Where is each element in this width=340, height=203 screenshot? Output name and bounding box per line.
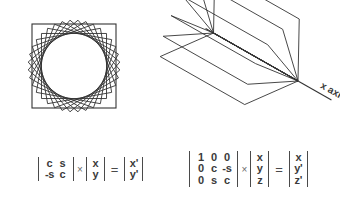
rotation-3d-matrix: 1000c-s0sc	[189, 151, 238, 187]
rotation-3d-equation: 1000c-s0sc × xyz = xy'z'	[189, 151, 307, 187]
res2d-row: y'	[129, 169, 138, 180]
vec2d-cell: y	[91, 169, 100, 180]
rotation-2d-figure	[6, 4, 141, 128]
rotation-2d-equation: cs-sc × xy = x'y'	[38, 157, 143, 181]
multiply-symbol-3d: ×	[241, 164, 247, 175]
rotated-square	[28, 20, 120, 112]
x-axis-label-group: x axis	[319, 80, 340, 104]
res3d-cell: z'	[294, 175, 303, 186]
rotation-3d-figure: x axis	[152, 4, 340, 128]
res3d-cell: y'	[294, 163, 303, 174]
rotation-2d-output-vector: x'y'	[124, 157, 143, 181]
vec2d-row: y	[91, 169, 100, 180]
rotated-plane-square	[198, 0, 298, 81]
matrix2d-row: -sc	[43, 169, 69, 180]
rotated-plane-square	[163, 33, 298, 84]
vec3d-row: y	[255, 163, 264, 174]
vec3d-cell: y	[255, 163, 264, 174]
equals-symbol-3d: =	[275, 162, 283, 177]
matrix2d-cell: -s	[43, 169, 56, 180]
matrix3d-cell: 0	[194, 175, 207, 186]
rotated-square	[36, 28, 111, 103]
x-axis-label: x axis	[319, 80, 340, 104]
matrix3d-cell: s	[207, 175, 220, 186]
rotated-square	[32, 24, 115, 107]
matrix2d-cell: c	[56, 169, 69, 180]
rotation-2d-canvas	[6, 4, 141, 128]
formula-row: cs-sc × xy = x'y' 1000c-s0sc × xyz = xy'…	[0, 136, 340, 202]
rotated-square	[36, 28, 111, 103]
multiply-symbol-2d: ×	[77, 164, 83, 175]
matrix3d-cell: c	[220, 175, 233, 186]
res2d-cell: y'	[129, 169, 138, 180]
res3d-row: y'	[294, 163, 303, 174]
rotation-2d-matrix: cs-sc	[38, 157, 74, 181]
res3d-row: z'	[294, 175, 303, 186]
rotated-square	[32, 24, 115, 107]
vec3d-cell: z	[255, 175, 264, 186]
matrix3d-row: 0sc	[194, 175, 233, 186]
rotation-3d-input-vector: xyz	[250, 151, 269, 187]
vec3d-row: z	[255, 175, 264, 186]
rotation-2d-input-vector: xy	[86, 157, 105, 181]
rotated-square	[28, 20, 120, 112]
matrix3d-row: 0c-s	[194, 163, 233, 174]
rotated-square	[30, 22, 119, 111]
equals-symbol-2d: =	[111, 162, 119, 177]
rotation-3d-canvas: x axis	[152, 4, 340, 128]
base-square	[32, 24, 116, 108]
rotated-plane-square	[183, 0, 298, 81]
matrix3d-cell: c	[207, 163, 220, 174]
rotated-square	[30, 22, 119, 111]
matrix3d-cell: -s	[220, 163, 233, 174]
matrix3d-cell: 0	[194, 163, 207, 174]
rotation-3d-output-vector: xy'z'	[289, 151, 308, 187]
